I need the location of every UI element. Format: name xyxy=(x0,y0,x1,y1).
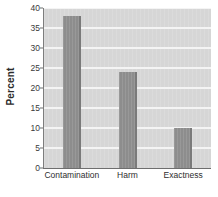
y-axis-title-label: Percent xyxy=(5,67,16,105)
plot-area xyxy=(44,8,211,168)
y-tick-label: 10 xyxy=(31,124,40,133)
bar xyxy=(174,128,192,168)
y-tick-label: 35 xyxy=(31,24,40,33)
y-axis-tick-labels: 0510152025303540 xyxy=(20,8,43,168)
x-tick-label: Contamination xyxy=(44,171,99,180)
bar xyxy=(63,16,81,168)
x-axis-tick-labels: ContaminationHarmExactness xyxy=(44,171,211,193)
y-axis-title: Percent xyxy=(0,0,20,172)
x-tick-label: Exactness xyxy=(164,171,203,180)
bar xyxy=(119,72,137,168)
y-tick-label: 20 xyxy=(31,84,40,93)
x-axis-line xyxy=(43,168,211,169)
y-tick-label: 40 xyxy=(31,4,40,13)
bar-chart-figure: Percent 0510152025303540 ContaminationHa… xyxy=(0,0,218,197)
gridline xyxy=(44,8,211,9)
y-tick-label: 15 xyxy=(31,104,40,113)
y-tick-label: 25 xyxy=(31,64,40,73)
x-tick-label: Harm xyxy=(117,171,138,180)
y-tick-label: 30 xyxy=(31,44,40,53)
